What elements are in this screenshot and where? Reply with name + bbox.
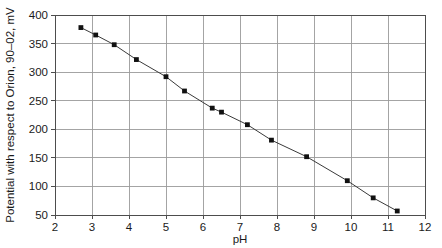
data-point-marker <box>79 25 84 30</box>
x-tick-label: 3 <box>89 221 95 233</box>
data-point-marker <box>245 122 250 127</box>
data-point-marker <box>164 74 169 79</box>
data-point-marker <box>93 33 98 38</box>
data-point-marker <box>182 89 187 94</box>
x-tick-label: 11 <box>382 221 394 233</box>
y-tick-label: 150 <box>29 152 48 164</box>
y-axis-title: Potential with respect to Orion, 90–02, … <box>4 7 16 223</box>
data-point-marker <box>210 106 215 111</box>
y-tick-label: 350 <box>29 38 48 50</box>
y-tick-label: 100 <box>29 180 48 192</box>
x-tick-label: 8 <box>274 221 280 233</box>
data-point-marker <box>395 209 400 214</box>
data-point-marker <box>219 110 224 115</box>
chart-container: 23456789101112 50100150200250300350400 p… <box>0 0 442 248</box>
y-tick-label: 300 <box>29 66 48 78</box>
y-tick-label: 250 <box>29 95 48 107</box>
data-point-marker <box>304 154 309 159</box>
x-tick-label: 9 <box>311 221 317 233</box>
x-tick-label: 7 <box>237 221 243 233</box>
x-tick-label: 2 <box>52 221 58 233</box>
y-tick-label: 400 <box>29 9 48 21</box>
data-point-marker <box>371 195 376 200</box>
chart-background <box>0 0 442 248</box>
data-point-marker <box>345 178 350 183</box>
data-point-marker <box>112 42 117 47</box>
y-tick-label: 50 <box>35 209 48 221</box>
x-tick-label: 5 <box>163 221 169 233</box>
data-point-marker <box>134 57 139 62</box>
x-tick-label: 12 <box>419 221 432 233</box>
x-tick-label: 4 <box>126 221 133 233</box>
y-tick-label: 200 <box>29 123 48 135</box>
data-point-marker <box>269 138 274 143</box>
ph-potential-line-chart: 23456789101112 50100150200250300350400 p… <box>0 0 442 248</box>
x-axis-title: pH <box>233 233 248 245</box>
x-tick-label: 6 <box>200 221 206 233</box>
x-tick-label: 10 <box>345 221 358 233</box>
